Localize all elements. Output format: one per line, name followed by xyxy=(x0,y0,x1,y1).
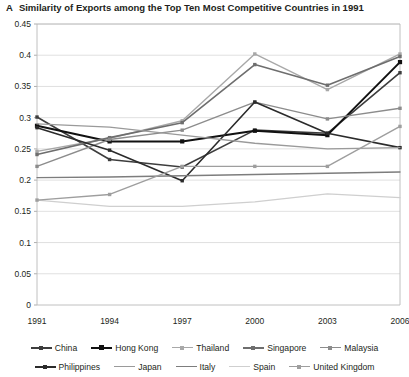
data-point-marker xyxy=(35,153,38,156)
data-point-marker xyxy=(253,100,256,103)
legend-swatch-icon xyxy=(172,343,193,352)
legend-label: Malaysia xyxy=(344,343,378,353)
x-axis-tick-label: 1997 xyxy=(173,316,192,326)
legend-row-1: ChinaHong KongThailandSingaporeMalaysia xyxy=(0,338,409,357)
data-point-marker xyxy=(35,150,38,153)
legend-item-philippines[interactable]: Philippines xyxy=(35,362,101,372)
legend-label: Thailand xyxy=(196,343,229,353)
page-title: Similarity of Exports among the Top Ten … xyxy=(19,2,364,13)
data-point-marker xyxy=(253,129,257,133)
data-point-marker xyxy=(398,60,402,64)
x-axis-tick-label: 1994 xyxy=(100,316,119,326)
x-axis-tick-label: 2000 xyxy=(245,316,264,326)
legend-label: Philippines xyxy=(59,362,101,372)
data-point-marker xyxy=(35,165,38,168)
legend-swatch-icon xyxy=(243,343,264,352)
legend-swatch-icon xyxy=(320,343,341,352)
y-axis-tick-label: 0.35 xyxy=(14,81,31,91)
data-point-marker xyxy=(398,71,401,74)
panel-title-row: A Similarity of Exports among the Top Te… xyxy=(0,2,409,13)
data-point-marker xyxy=(35,115,38,118)
data-point-marker xyxy=(253,63,256,66)
y-axis-tick-label: 0.15 xyxy=(14,206,31,216)
data-point-marker xyxy=(326,132,329,135)
data-point-marker xyxy=(181,179,184,182)
y-axis-tick-label: 0.05 xyxy=(14,269,31,279)
x-axis-tick-label: 1991 xyxy=(28,316,47,326)
data-point-marker xyxy=(108,148,111,151)
data-point-marker xyxy=(35,198,38,201)
legend-label: Japan xyxy=(138,362,161,372)
data-point-marker xyxy=(326,88,329,91)
chart-legend: ChinaHong KongThailandSingaporeMalaysia … xyxy=(0,338,409,376)
legend-swatch-icon xyxy=(31,343,52,352)
y-axis-tick-label: 0.45 xyxy=(14,19,31,29)
y-axis-tick-label: 0.3 xyxy=(19,113,31,123)
legend-item-thailand[interactable]: Thailand xyxy=(172,343,229,353)
data-point-marker xyxy=(108,193,111,196)
y-axis-tick-label: 0.2 xyxy=(19,175,31,185)
line-chart: 00.050.10.150.20.250.30.350.40.451991199… xyxy=(0,16,409,334)
legend-item-united-kingdom[interactable]: United Kingdom xyxy=(289,362,374,372)
legend-label: Italy xyxy=(200,362,216,372)
y-axis-tick-label: 0.1 xyxy=(19,238,31,248)
legend-label: Hong Kong xyxy=(115,343,158,353)
legend-swatch-icon xyxy=(289,362,310,371)
legend-item-singapore[interactable]: Singapore xyxy=(243,343,306,353)
data-point-marker xyxy=(326,84,329,87)
series-line xyxy=(37,172,400,178)
legend-label: Spain xyxy=(253,362,275,372)
data-point-marker xyxy=(180,139,184,143)
data-point-marker xyxy=(108,158,111,161)
legend-swatch-icon xyxy=(35,362,56,371)
legend-item-italy[interactable]: Italy xyxy=(176,362,216,372)
data-point-marker xyxy=(181,165,184,168)
data-point-marker xyxy=(326,165,329,168)
x-axis-tick-label: 2006 xyxy=(391,316,409,326)
panel-letter: A xyxy=(6,2,13,13)
data-point-marker xyxy=(398,55,401,58)
legend-label: Singapore xyxy=(267,343,306,353)
legend-item-japan[interactable]: Japan xyxy=(114,362,161,372)
legend-swatch-icon xyxy=(114,362,135,371)
legend-item-spain[interactable]: Spain xyxy=(229,362,275,372)
data-point-marker xyxy=(181,128,184,131)
y-axis-tick-label: 0.25 xyxy=(14,144,31,154)
legend-item-china[interactable]: China xyxy=(31,343,77,353)
legend-item-malaysia[interactable]: Malaysia xyxy=(320,343,378,353)
data-point-marker xyxy=(35,126,38,129)
y-axis-tick-label: 0 xyxy=(26,300,31,310)
legend-label: China xyxy=(55,343,77,353)
data-point-marker xyxy=(398,107,401,110)
legend-swatch-icon xyxy=(91,343,112,352)
legend-label: United Kingdom xyxy=(313,362,374,372)
data-point-marker xyxy=(398,125,401,128)
data-point-marker xyxy=(181,121,184,124)
series-line xyxy=(37,62,400,141)
legend-item-hong-kong[interactable]: Hong Kong xyxy=(91,343,158,353)
legend-swatch-icon xyxy=(176,362,197,371)
data-point-marker xyxy=(108,138,111,141)
data-point-marker xyxy=(253,52,256,55)
data-point-marker xyxy=(253,165,256,168)
legend-swatch-icon xyxy=(229,362,250,371)
x-axis-tick-label: 2003 xyxy=(318,316,337,326)
data-point-marker xyxy=(326,117,329,120)
legend-row-2: PhilippinesJapanItalySpainUnited Kingdom xyxy=(0,357,409,376)
chart-container: 00.050.10.150.20.250.30.350.40.451991199… xyxy=(0,16,409,334)
y-axis-tick-label: 0.4 xyxy=(19,50,31,60)
